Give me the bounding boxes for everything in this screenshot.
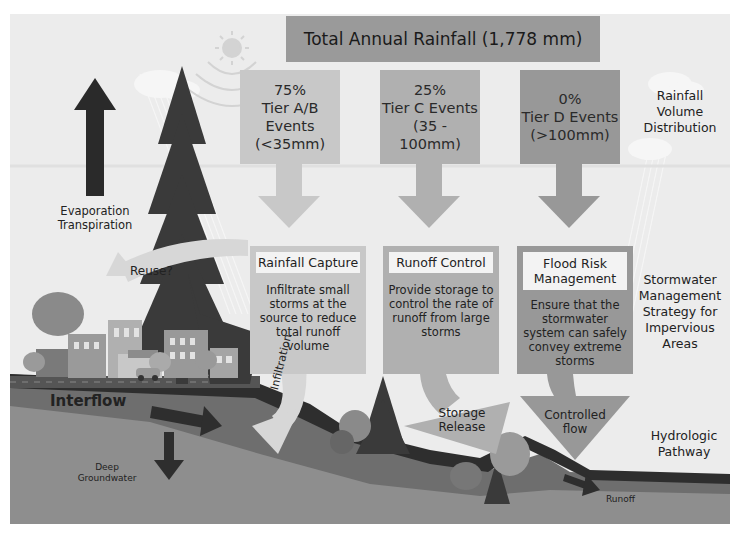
title-text: Total Annual Rainfall (1,778 mm) [304, 29, 583, 49]
evaporation-label: Evaporation Transpiration [50, 204, 140, 232]
diagram-canvas: Total Annual Rainfall (1,778 mm) 75% Tie… [10, 14, 730, 524]
runoff-control-box: Runoff Control Provide storage to contro… [383, 246, 499, 374]
strategy-description: Infiltrate small storms at the source to… [250, 283, 366, 353]
rainfall-distribution-label: Rainfall Volume Distribution [640, 88, 720, 136]
tier-percent: 0% [558, 90, 581, 108]
hydrologic-pathway-label: Hydrologic Pathway [646, 428, 722, 460]
strategy-description: Ensure that the stormwater system can sa… [517, 298, 633, 368]
tier-percent: 75% [274, 81, 306, 99]
controlled-flow-label: Controlled flow [540, 408, 610, 436]
strategy-header: Flood Risk Management [523, 252, 627, 290]
total-rainfall-title: Total Annual Rainfall (1,778 mm) [286, 16, 600, 62]
strategy-description: Provide storage to control the rate of r… [383, 283, 499, 339]
tier-d-box: 0% Tier D Events (>100mm) [520, 70, 620, 164]
evaporation-arrow-icon [74, 78, 116, 196]
tier-name: Tier D Events [522, 108, 619, 126]
tier-name: Tier C Events [382, 99, 478, 117]
tier-range: (<35mm) [255, 135, 325, 153]
deep-groundwater-label: Deep Groundwater [72, 462, 142, 484]
tier-c-box: 25% Tier C Events (35 - 100mm) [380, 70, 480, 164]
storage-release-label: Storage Release [432, 406, 492, 434]
strategy-row-label: Stormwater Management Strategy for Imper… [632, 272, 728, 352]
runoff-label: Runoff [606, 494, 635, 504]
tier-name: Tier A/B Events [240, 99, 340, 135]
flood-risk-box: Flood Risk Management Ensure that the st… [517, 246, 633, 374]
distribution-arrows [258, 164, 600, 228]
rainfall-capture-box: Rainfall Capture Infiltrate small storms… [250, 246, 366, 374]
tier-range: (35 - 100mm) [380, 117, 480, 153]
tier-percent: 25% [414, 81, 446, 99]
tier-ab-box: 75% Tier A/B Events (<35mm) [240, 70, 340, 164]
reuse-label: Reuse? [130, 264, 173, 278]
tier-range: (>100mm) [530, 126, 609, 144]
strategy-header: Runoff Control [389, 252, 493, 273]
strategy-header: Rainfall Capture [256, 252, 360, 273]
interflow-label: Interflow [50, 392, 126, 410]
